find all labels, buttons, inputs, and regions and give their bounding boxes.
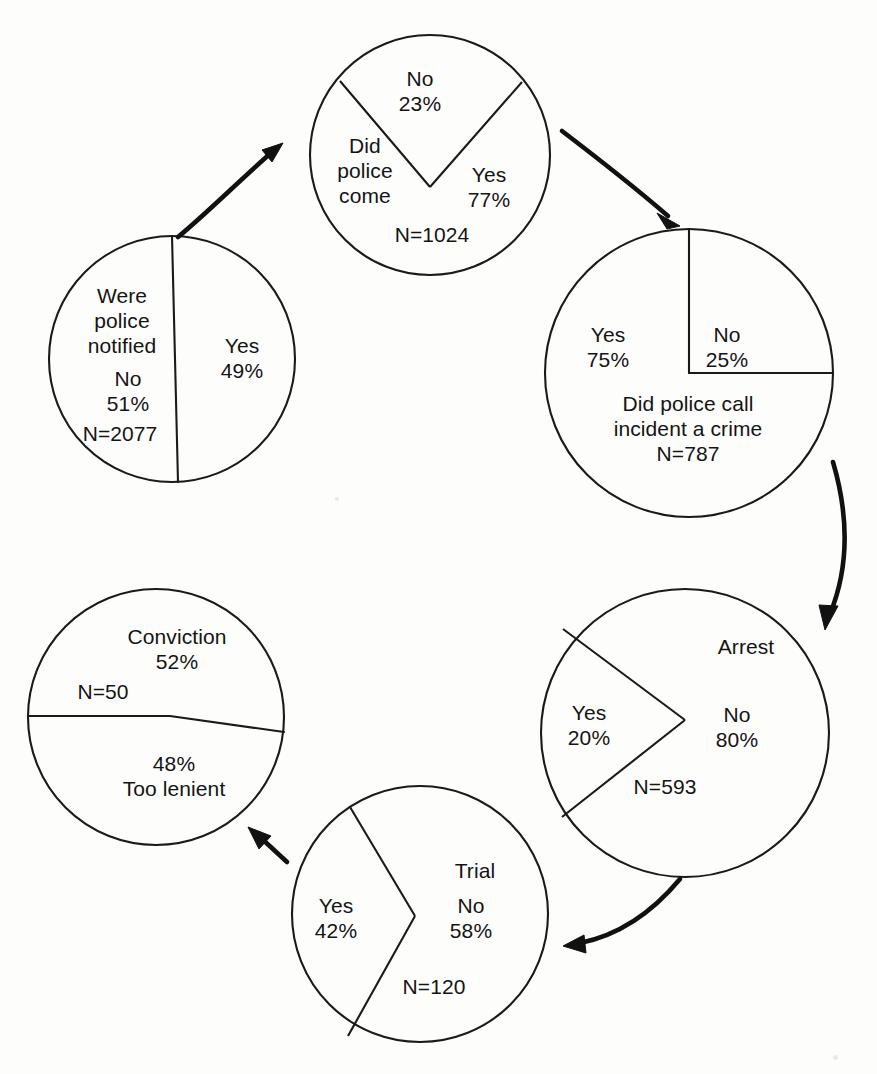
arrow-head [819, 605, 838, 630]
crime-yes-label: Yes [591, 322, 626, 347]
notified-yes-label: Yes [225, 333, 260, 358]
come-yes-label: Yes [472, 162, 507, 187]
arrest-no-label: No [723, 702, 750, 727]
arrow-arrest-to-trial [563, 879, 680, 953]
pie-cycle-figure: Were police notified No 51% N=2077 Yes 4… [0, 0, 877, 1074]
arrow-shaft [178, 152, 272, 237]
conviction-n-value: N=50 [77, 679, 128, 704]
come-no-percent: 23% [399, 91, 441, 116]
arrow-come-to-crime [562, 131, 680, 229]
trial-no-label: No [457, 893, 484, 918]
notified-title-line3: notified [88, 333, 157, 358]
conviction-percent: 52% [156, 649, 198, 674]
arrow-shaft [830, 462, 845, 614]
crime-title-line1: Did police call [622, 391, 753, 416]
come-n-value: N=1024 [395, 222, 470, 247]
come-title-line2: police [337, 158, 392, 183]
lenient-percent: 48% [153, 751, 195, 776]
crime-n-value: N=787 [657, 441, 720, 466]
arrest-no-percent: 80% [716, 727, 758, 752]
crime-title-line2: incident a crime [614, 416, 763, 441]
crime-no-percent: 25% [706, 347, 748, 372]
crime-no-label: No [713, 322, 740, 347]
trial-yes-percent: 42% [315, 918, 357, 943]
trial-yes-label: Yes [319, 893, 354, 918]
notified-title-line1: Were [97, 283, 147, 308]
conviction-title: Conviction [127, 624, 226, 649]
arrest-title: Arrest [718, 634, 775, 659]
arrest-yes-percent: 20% [568, 725, 610, 750]
notified-title-line2: police [94, 308, 149, 333]
trial-title: Trial [455, 858, 496, 883]
arrow-crime-to-arrest [819, 462, 845, 630]
lenient-title: Too lenient [123, 776, 226, 801]
notified-n-value: N=2077 [83, 421, 158, 446]
scan-speck [833, 1055, 838, 1060]
notified-no-percent: 51% [107, 391, 149, 416]
scan-speck [335, 497, 339, 501]
trial-no-percent: 58% [450, 918, 492, 943]
pie-did-police-call-incident-a-crime[interactable] [545, 229, 833, 517]
arrest-yes-label: Yes [572, 700, 607, 725]
arrow-shaft [562, 131, 668, 216]
come-title-line1: Did [349, 133, 381, 158]
figure-canvas [0, 0, 877, 1074]
trial-n-value: N=120 [403, 974, 466, 999]
come-yes-percent: 77% [468, 187, 510, 212]
notified-yes-percent: 49% [221, 358, 263, 383]
come-title-line3: come [339, 183, 391, 208]
arrest-n-value: N=593 [634, 774, 697, 799]
arrow-trial-to-conviction [248, 827, 287, 862]
arrow-shaft [580, 879, 680, 943]
arrow-notified-to-come [178, 143, 283, 237]
come-no-label: No [406, 66, 433, 91]
arrow-head [563, 935, 586, 953]
crime-yes-percent: 75% [587, 347, 629, 372]
notified-no-label: No [114, 366, 141, 391]
